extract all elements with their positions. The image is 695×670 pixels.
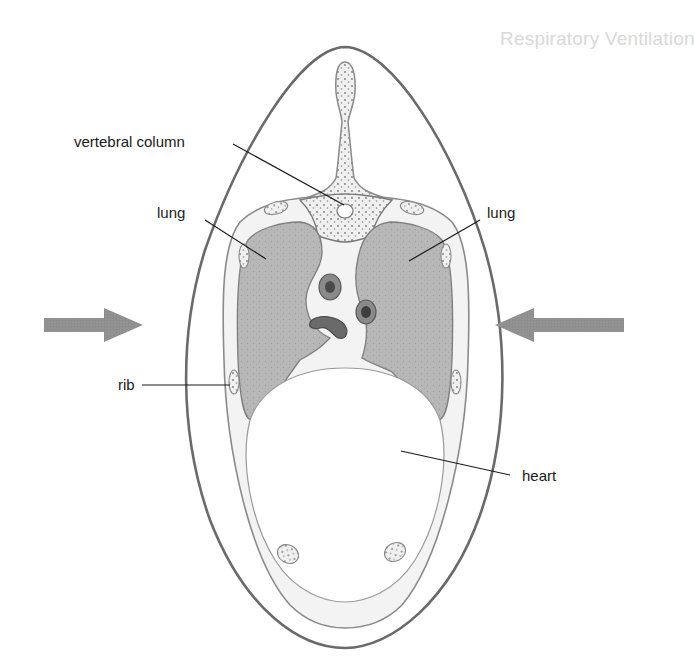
label-rib: rib (118, 376, 135, 393)
label-lung-right: lung (487, 204, 515, 221)
right-arrow-icon (495, 308, 624, 342)
label-lung-left: lung (157, 204, 185, 221)
left-arrow-icon (44, 308, 143, 342)
label-heart: heart (522, 467, 556, 484)
label-vertebral-column: vertebral column (74, 133, 185, 150)
spinal-canal (337, 204, 353, 218)
